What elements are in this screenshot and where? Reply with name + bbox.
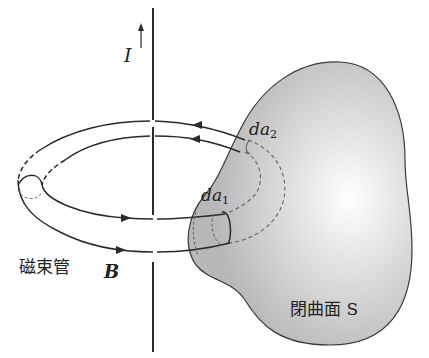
da2-subscript: 2 bbox=[270, 128, 277, 141]
da1-main: da bbox=[201, 185, 222, 205]
field-arrow-outer-icon bbox=[116, 246, 126, 254]
field-arrow-top-outer-icon bbox=[192, 121, 202, 129]
current-arrowhead-icon bbox=[138, 23, 144, 31]
diagram-canvas bbox=[0, 0, 429, 358]
flux-tube-outer-top-left bbox=[40, 121, 150, 150]
field-arrow-top-inner-icon bbox=[190, 135, 200, 143]
flux-tube-inner-bottom bbox=[42, 185, 153, 219]
closed-surface-label: 閉曲面 S bbox=[290, 295, 358, 320]
flux-tube-cross-section-left bbox=[18, 175, 42, 185]
flux-tube-inner-top-dash bbox=[42, 160, 65, 185]
flux-tube-label: 磁束管 bbox=[19, 253, 70, 278]
magnetic-field-label: B bbox=[104, 261, 119, 282]
field-arrow-inner-icon bbox=[121, 214, 131, 222]
da2-main: da bbox=[249, 119, 270, 139]
flux-tube-left-end bbox=[18, 180, 60, 232]
current-label: I bbox=[124, 44, 132, 66]
da2-label: da2 bbox=[249, 119, 277, 141]
flux-tube-inner-top-left bbox=[65, 136, 150, 160]
da1-subscript: 1 bbox=[222, 194, 229, 207]
flux-tube-outer-bottom bbox=[60, 232, 153, 252]
da1-label: da1 bbox=[201, 185, 229, 207]
